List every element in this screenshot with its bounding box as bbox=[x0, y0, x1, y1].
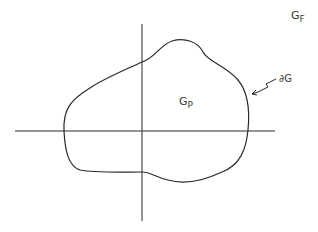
outer-region-label: GF bbox=[291, 9, 305, 24]
boundary-pointer-icon bbox=[252, 79, 276, 94]
region-boundary-curve bbox=[64, 40, 249, 182]
region-diagram: GF GP ∂G bbox=[0, 0, 318, 232]
boundary-label: ∂G bbox=[279, 73, 292, 84]
inner-region-label: GP bbox=[179, 95, 194, 110]
